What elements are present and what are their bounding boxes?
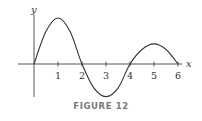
x-tick-label: 2 bbox=[79, 70, 85, 81]
figure-caption: FIGURE 12 bbox=[0, 101, 202, 111]
x-tick-label: 5 bbox=[151, 70, 157, 81]
x-axis-label: x bbox=[186, 58, 192, 69]
x-tick-label: 3 bbox=[103, 70, 109, 81]
x-tick-labels: 1 2 3 4 5 6 bbox=[55, 70, 181, 81]
y-axis-label: y bbox=[30, 4, 37, 15]
function-curve bbox=[34, 18, 178, 97]
x-tick-label: 4 bbox=[127, 70, 133, 81]
x-tick-label: 1 bbox=[55, 70, 61, 81]
x-tick-label: 6 bbox=[175, 70, 181, 81]
function-graph-figure: 1 2 3 4 5 6 y x FIGURE 12 bbox=[0, 0, 202, 121]
